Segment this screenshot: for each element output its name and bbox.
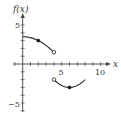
open-point-icon — [52, 51, 56, 55]
y-tick-label-neg5: −5 — [8, 100, 20, 109]
axes — [13, 13, 111, 112]
x-tick-label-10: 10 — [95, 68, 105, 77]
y-tick-label-5: 5 — [15, 21, 20, 30]
filled-point-icon — [68, 86, 71, 89]
x-axis-arrow-icon — [106, 62, 111, 66]
filled-point-icon — [37, 39, 40, 42]
open-point-icon — [52, 78, 56, 82]
y-axis-label: f(x) — [12, 4, 29, 14]
function-graph: f(x) x 5 10 5 −5 — [0, 0, 121, 120]
x-axis-label: x — [113, 59, 118, 69]
x-tick-label-5: 5 — [59, 68, 64, 77]
